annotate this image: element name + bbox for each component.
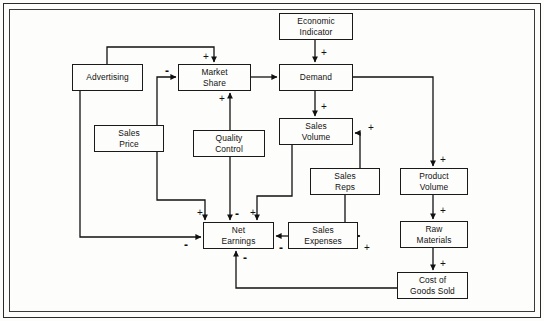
node-label: Volume: [302, 132, 331, 143]
polarity-sign-sales-volume-to-net-earnings: +: [250, 208, 256, 218]
node-label: Economic: [297, 16, 335, 27]
node-label: Market: [201, 67, 227, 78]
node-label: Net: [232, 225, 245, 236]
link-demand-to-product-volume: [353, 77, 433, 166]
node-sales-price[interactable]: SalesPrice: [94, 125, 164, 152]
node-label: Quality: [216, 133, 243, 144]
node-label: Raw: [425, 224, 442, 235]
node-label: Cost of: [419, 275, 446, 286]
polarity-sign-advertising-to-market-share: +: [203, 52, 209, 62]
node-label: Demand: [300, 72, 332, 83]
node-label: Control: [215, 144, 243, 155]
polarity-sign-advertising-to-net-earnings: -: [184, 240, 188, 250]
node-label: Sales: [312, 225, 333, 236]
node-quality-control[interactable]: QualityControl: [193, 130, 265, 157]
node-cost-of-goods-sold[interactable]: Cost ofGoods Sold: [397, 272, 468, 299]
polarity-sign-demand-to-sales-volume: +: [321, 102, 327, 112]
node-label: Sales: [305, 121, 326, 132]
polarity-sign-sales-reps-to-sales-expenses: +: [364, 243, 370, 253]
polarity-sign-sales-price-to-net-earnings: +: [197, 208, 203, 218]
node-label: Volume: [420, 182, 449, 193]
node-label: Advertising: [86, 72, 129, 83]
polarity-sign-quality-control-to-market-share: +: [219, 94, 225, 104]
link-advertising-to-net-earnings: [80, 91, 201, 237]
node-market-share[interactable]: MarketShare: [178, 64, 251, 91]
link-sales-reps-to-sales-volume: [355, 133, 360, 168]
polarity-sign-sales-expenses-to-net-earnings: -: [279, 243, 283, 253]
node-economic-indicator[interactable]: EconomicIndicator: [279, 13, 353, 40]
polarity-sign-quality-control-to-net-earnings: -: [235, 209, 239, 219]
node-label: Goods Sold: [410, 286, 455, 297]
node-label: Sales: [118, 128, 139, 139]
node-label: Indicator: [299, 27, 332, 38]
node-label: Sales: [334, 171, 355, 182]
node-sales-volume[interactable]: SalesVolume: [279, 118, 353, 145]
polarity-sign-product-volume-to-raw-materials: +: [440, 206, 446, 216]
node-label: Materials: [417, 235, 452, 246]
polarity-sign-raw-materials-to-cost-of-goods-sold: +: [440, 259, 446, 269]
node-label: Expenses: [304, 236, 342, 247]
link-cost-of-goods-sold-to-net-earnings: [236, 251, 397, 288]
node-net-earnings[interactable]: NetEarnings: [203, 222, 274, 249]
link-advertising-to-market-share: [107, 47, 214, 64]
link-sales-price-to-market-share: [157, 77, 176, 125]
node-advertising[interactable]: Advertising: [72, 64, 143, 91]
diagram-canvas: EconomicIndicatorAdvertisingMarketShareD…: [0, 0, 544, 321]
node-label: Earnings: [222, 236, 256, 247]
node-label: Price: [119, 139, 139, 150]
polarity-sign-economic-indicator-to-demand: +: [321, 48, 327, 58]
polarity-sign-cost-of-goods-sold-to-net-earnings: -: [243, 253, 247, 263]
node-label: Reps: [335, 182, 355, 193]
polarity-sign-demand-to-product-volume: +: [440, 155, 446, 165]
node-label: Share: [203, 78, 226, 89]
node-sales-expenses[interactable]: SalesExpenses: [288, 222, 358, 249]
node-raw-materials[interactable]: RawMaterials: [400, 221, 468, 248]
polarity-sign-sales-price-to-market-share: -: [165, 66, 169, 76]
node-demand[interactable]: Demand: [279, 64, 353, 91]
node-product-volume[interactable]: ProductVolume: [400, 168, 468, 195]
polarity-sign-sales-reps-to-sales-volume: +: [368, 123, 374, 133]
node-sales-reps[interactable]: SalesReps: [310, 168, 380, 195]
node-label: Product: [419, 171, 449, 182]
